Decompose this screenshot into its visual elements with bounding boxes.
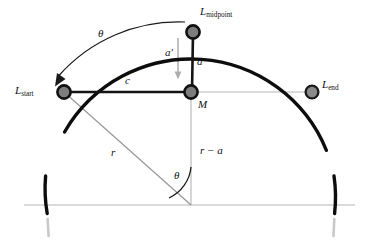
sagitta-prime-arrowhead xyxy=(175,72,182,80)
node-l-end[interactable] xyxy=(306,86,319,99)
label-sagitta-a: a xyxy=(197,56,203,67)
label-theta-arc: θ xyxy=(98,28,103,39)
sagitta-segment xyxy=(192,33,193,92)
theta-center-arc xyxy=(169,167,191,198)
arc-tail-right xyxy=(334,176,336,214)
label-m: M xyxy=(198,99,207,110)
main-arc xyxy=(65,59,327,150)
label-l-end: Lend xyxy=(322,79,339,92)
arc-fade-right xyxy=(334,219,335,236)
label-l-start: Lstart xyxy=(15,85,34,98)
label-sagitta-a-prime: a' xyxy=(165,47,173,58)
label-l-midpoint: Lmidpoint xyxy=(200,6,232,19)
arc-tail-left xyxy=(45,176,47,214)
label-radius-r: r xyxy=(111,147,115,158)
diagram-canvas: Lmidpoint Lstart Lend M c a a' r r − a θ… xyxy=(0,0,377,252)
node-l-midpoint[interactable] xyxy=(186,25,199,38)
node-m[interactable] xyxy=(184,85,197,98)
label-radius-minus-a: r − a xyxy=(200,145,223,156)
geometry-figure xyxy=(0,0,377,252)
label-chord-c: c xyxy=(125,75,130,86)
node-l-start[interactable] xyxy=(57,85,70,98)
label-theta-center: θ xyxy=(174,170,179,181)
arc-fade-left xyxy=(48,219,49,236)
